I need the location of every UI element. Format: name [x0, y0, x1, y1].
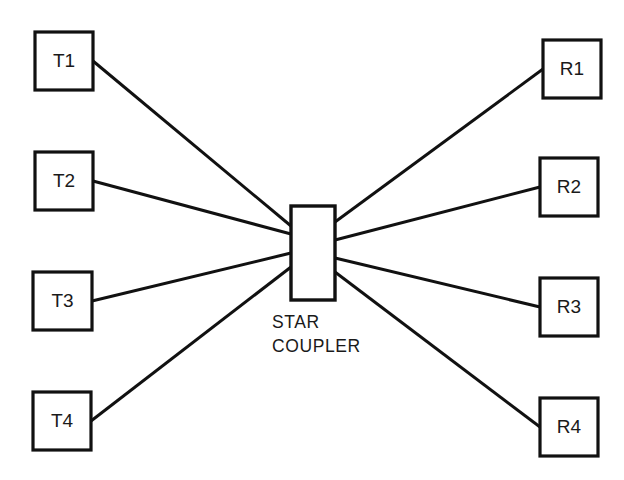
transmitter-node-t1[interactable]: T1 [35, 32, 93, 90]
transmitter-label-t4: T4 [51, 410, 74, 431]
link-t4-to-coupler [91, 267, 291, 421]
coupler-caption-line-2: COUPLER [272, 336, 361, 356]
transmitter-label-t2: T2 [53, 170, 75, 191]
transmitter-label-t1: T1 [53, 50, 75, 71]
receiver-label-r2: R2 [557, 176, 581, 197]
receiver-node-r1[interactable]: R1 [543, 40, 601, 98]
receiver-node-r2[interactable]: R2 [540, 158, 598, 216]
coupler-group[interactable] [291, 206, 335, 300]
link-t2-to-coupler [93, 181, 291, 234]
transmitter-label-t3: T3 [51, 290, 73, 311]
receiver-node-r4[interactable]: R4 [540, 398, 598, 456]
link-t1-to-coupler [93, 61, 291, 226]
link-coupler-to-r1 [335, 69, 543, 222]
link-t3-to-coupler [92, 253, 291, 301]
transmitter-node-t4[interactable]: T4 [33, 392, 91, 450]
star-coupler-diagram: T1T2T3T4R1R2R3R4 STAR COUPLER [0, 0, 624, 480]
diagram-canvas: T1T2T3T4R1R2R3R4 STAR COUPLER [0, 0, 624, 480]
link-coupler-to-r4 [335, 272, 540, 427]
transmitter-node-t2[interactable]: T2 [35, 152, 93, 210]
receiver-label-r1: R1 [560, 58, 584, 79]
link-coupler-to-r3 [335, 258, 540, 307]
star-coupler-box[interactable] [291, 206, 335, 300]
receiver-label-r4: R4 [557, 416, 582, 437]
coupler-caption-line-1: STAR [272, 312, 320, 332]
receiver-node-r3[interactable]: R3 [540, 278, 598, 336]
transmitter-node-t3[interactable]: T3 [33, 272, 92, 330]
link-coupler-to-r2 [335, 187, 540, 240]
coupler-caption-group: STAR COUPLER [272, 312, 361, 356]
receiver-label-r3: R3 [557, 296, 581, 317]
